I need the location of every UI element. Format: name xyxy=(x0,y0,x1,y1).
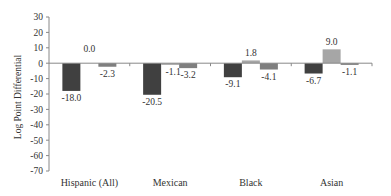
category-label: Hispanic (All) xyxy=(61,177,119,189)
y-tick-label: -30 xyxy=(30,105,43,115)
data-label: -9.1 xyxy=(225,79,240,89)
y-tick-label: -20 xyxy=(30,89,43,99)
bar xyxy=(98,63,116,67)
data-label: -18.0 xyxy=(61,93,81,103)
data-label: 0.0 xyxy=(83,44,95,54)
x-axis xyxy=(49,63,372,66)
data-label: -20.5 xyxy=(142,97,162,107)
y-tick-label: -50 xyxy=(30,136,43,146)
category-label: Mexican xyxy=(153,177,188,188)
data-label: -6.7 xyxy=(306,76,321,86)
bar xyxy=(62,63,80,91)
y-tick-label: -10 xyxy=(30,74,43,84)
data-label: 9.0 xyxy=(326,37,338,47)
y-axis: 3020100-10-20-30-40-50-60-70 xyxy=(30,12,49,176)
y-axis-title: Log Point Differential xyxy=(13,55,23,140)
category-label: Asian xyxy=(320,177,343,188)
data-label: 1.8 xyxy=(245,48,257,58)
bar-chart: Log Point Differential 3020100-10-20-30-… xyxy=(0,0,391,196)
data-label: -3.2 xyxy=(181,70,196,80)
bar xyxy=(323,49,341,63)
y-tick-label: 20 xyxy=(34,28,44,38)
y-tick-label: 0 xyxy=(38,59,43,69)
y-tick-label: -70 xyxy=(30,166,43,176)
data-label: -1.1 xyxy=(342,67,357,77)
category-label: Black xyxy=(239,177,262,188)
category-labels: Hispanic (All)MexicanBlackAsian xyxy=(61,177,344,189)
bar xyxy=(305,63,323,73)
bar xyxy=(224,63,242,77)
y-tick-label: 30 xyxy=(34,12,44,22)
y-axis-title-group: Log Point Differential xyxy=(13,55,23,140)
data-label: -2.3 xyxy=(100,69,115,79)
bar xyxy=(260,63,278,69)
bar xyxy=(179,63,197,68)
bar xyxy=(143,63,161,95)
y-tick-label: -40 xyxy=(30,120,43,130)
data-label: -1.1 xyxy=(166,67,181,77)
chart-canvas: Log Point Differential 3020100-10-20-30-… xyxy=(0,0,391,196)
y-tick-label: -60 xyxy=(30,151,43,161)
data-label: -4.1 xyxy=(261,72,276,82)
y-tick-label: 10 xyxy=(34,43,44,53)
